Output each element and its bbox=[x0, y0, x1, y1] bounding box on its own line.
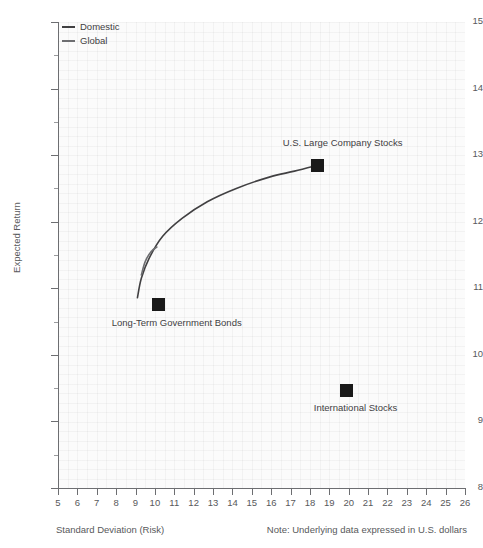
y-tick-minor-14.5 bbox=[54, 55, 58, 56]
x-tick-22 bbox=[387, 489, 388, 495]
x-tick-12 bbox=[194, 489, 195, 495]
y-tick-11 bbox=[51, 288, 58, 289]
y-tick-9 bbox=[51, 421, 58, 422]
data-marker[interactable] bbox=[311, 159, 324, 172]
x-tick-25 bbox=[446, 489, 447, 495]
data-marker-label: U.S. Large Company Stocks bbox=[283, 137, 403, 148]
data-marker[interactable] bbox=[152, 298, 165, 311]
x-tick-19 bbox=[329, 489, 330, 495]
y-tick-label-15: 15 bbox=[437, 16, 483, 26]
y-tick-label-9: 9 bbox=[437, 415, 483, 425]
legend-label: Domestic bbox=[80, 21, 120, 33]
y-tick-13 bbox=[51, 155, 58, 156]
chart-legend: DomesticGlobal bbox=[62, 20, 120, 48]
x-tick-13 bbox=[213, 489, 214, 495]
y-tick-10 bbox=[51, 355, 58, 356]
y-tick-label-11: 11 bbox=[437, 282, 483, 292]
x-axis-line bbox=[58, 488, 466, 489]
y-tick-minor-11.5 bbox=[54, 255, 58, 256]
x-tick-26 bbox=[465, 489, 466, 495]
data-marker-label: Long-Term Government Bonds bbox=[112, 317, 242, 328]
y-axis-title: Expected Return bbox=[11, 178, 22, 298]
x-tick-17 bbox=[291, 489, 292, 495]
x-tick-6 bbox=[77, 489, 78, 495]
y-tick-8 bbox=[51, 488, 58, 489]
y-tick-label-8: 8 bbox=[437, 482, 483, 492]
x-tick-10 bbox=[155, 489, 156, 495]
y-tick-minor-10.5 bbox=[54, 322, 58, 323]
plot-area bbox=[58, 22, 465, 488]
x-tick-21 bbox=[368, 489, 369, 495]
x-tick-20 bbox=[349, 489, 350, 495]
data-marker[interactable] bbox=[340, 384, 353, 397]
y-axis-line bbox=[58, 22, 59, 489]
x-tick-9 bbox=[136, 489, 137, 495]
legend-swatch-icon bbox=[62, 26, 75, 28]
legend-swatch-icon bbox=[62, 40, 75, 42]
y-tick-label-13: 13 bbox=[437, 149, 483, 159]
x-tick-8 bbox=[116, 489, 117, 495]
x-tick-5 bbox=[58, 489, 59, 495]
y-tick-12 bbox=[51, 222, 58, 223]
x-tick-14 bbox=[232, 489, 233, 495]
y-tick-minor-8.5 bbox=[54, 455, 58, 456]
chart-note: Note: Underlying data expressed in U.S. … bbox=[267, 524, 467, 535]
x-axis-title: Standard Deviation (Risk) bbox=[56, 524, 164, 535]
legend-item-global[interactable]: Global bbox=[62, 34, 120, 47]
x-tick-18 bbox=[310, 489, 311, 495]
legend-item-domestic[interactable]: Domestic bbox=[62, 20, 120, 33]
y-tick-minor-12.5 bbox=[54, 188, 58, 189]
y-tick-label-12: 12 bbox=[437, 216, 483, 226]
y-tick-label-14: 14 bbox=[437, 83, 483, 93]
y-tick-minor-13.5 bbox=[54, 122, 58, 123]
x-tick-11 bbox=[174, 489, 175, 495]
x-tick-15 bbox=[252, 489, 253, 495]
chart-root: 89101112131415 5678910111213141516171819… bbox=[0, 0, 483, 548]
y-tick-label-10: 10 bbox=[437, 349, 483, 359]
legend-label: Global bbox=[80, 35, 107, 47]
data-marker-label: International Stocks bbox=[314, 402, 397, 413]
y-tick-14 bbox=[51, 89, 58, 90]
x-tick-23 bbox=[407, 489, 408, 495]
y-tick-minor-9.5 bbox=[54, 388, 58, 389]
x-tick-24 bbox=[426, 489, 427, 495]
x-tick-16 bbox=[271, 489, 272, 495]
y-tick-15 bbox=[51, 22, 58, 23]
x-tick-label-26: 26 bbox=[453, 497, 477, 508]
x-tick-7 bbox=[97, 489, 98, 495]
